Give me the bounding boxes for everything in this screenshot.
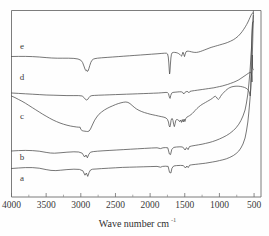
x-tick-label: 2500 [106,200,125,210]
x-tick-label: 3000 [71,200,90,210]
curve-label-e: e [20,41,24,51]
curve-label-d: d [20,72,25,82]
x-axis-title: Wave number cm -1 [99,216,176,230]
spectra-plot: 4000350030002500200015001000500 abcde Wa… [0,0,269,236]
x-tick-label: 500 [247,200,262,210]
x-axis-title-label: Wave number cm [99,218,170,229]
curve-label-a: a [20,173,24,183]
x-tick-label: 4000 [2,200,21,210]
curve-label-b: b [20,152,25,162]
ftir-spectra-figure: 4000350030002500200015001000500 abcde Wa… [0,0,269,236]
x-tick-label: 1500 [175,200,194,210]
x-axis-title-superscript: -1 [171,216,176,223]
x-tick-label: 1000 [210,200,229,210]
curve-label-c: c [20,111,24,121]
x-tick-label: 3500 [37,200,56,210]
x-tick-label: 2000 [141,200,160,210]
